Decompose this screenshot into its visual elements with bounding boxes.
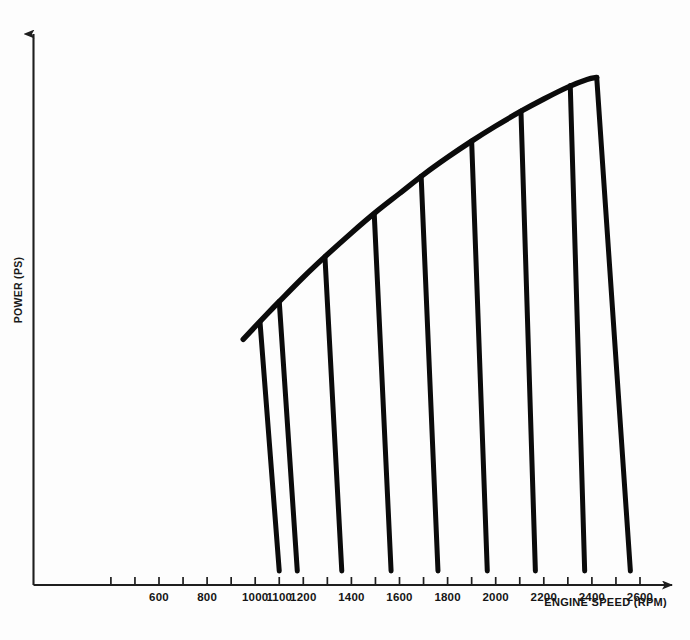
droop-line-1400 <box>325 257 342 571</box>
droop-line-2400 <box>570 86 584 571</box>
droop-line-1800 <box>421 176 438 571</box>
x-axis-tick-label: 600 <box>149 591 169 603</box>
y-axis-title: POWER (PS) <box>12 257 24 324</box>
x-axis-tick-label: 1600 <box>386 591 412 603</box>
x-axis-tick-label: 1400 <box>338 591 364 603</box>
x-axis-tick-label: 2000 <box>483 591 509 603</box>
x-axis-tick-label: 1100 <box>266 591 292 603</box>
droop-line-1600 <box>374 214 391 571</box>
chart-page: 6008001000110012001400160018002000220024… <box>0 0 690 640</box>
x-axis-tick-label: 800 <box>197 591 217 603</box>
x-axis-tick-label: 1800 <box>434 591 460 603</box>
droop-line-2200 <box>521 111 535 571</box>
droop-line-group <box>260 77 630 571</box>
droop-line-2600 <box>597 77 631 571</box>
power-envelope-curve <box>243 77 597 339</box>
droop-line-2000 <box>472 141 488 571</box>
x-axis-tick-label: 1000 <box>242 591 268 603</box>
x-axis-tick-label: 1200 <box>290 591 316 603</box>
x-axis-title: ENGINE SPEED (RPM) <box>544 596 667 608</box>
droop-line-1200 <box>279 302 297 571</box>
engine-power-chart: 6008001000110012001400160018002000220024… <box>0 0 690 640</box>
droop-line-1100 <box>260 322 279 571</box>
x-axis-ticks <box>111 577 640 584</box>
